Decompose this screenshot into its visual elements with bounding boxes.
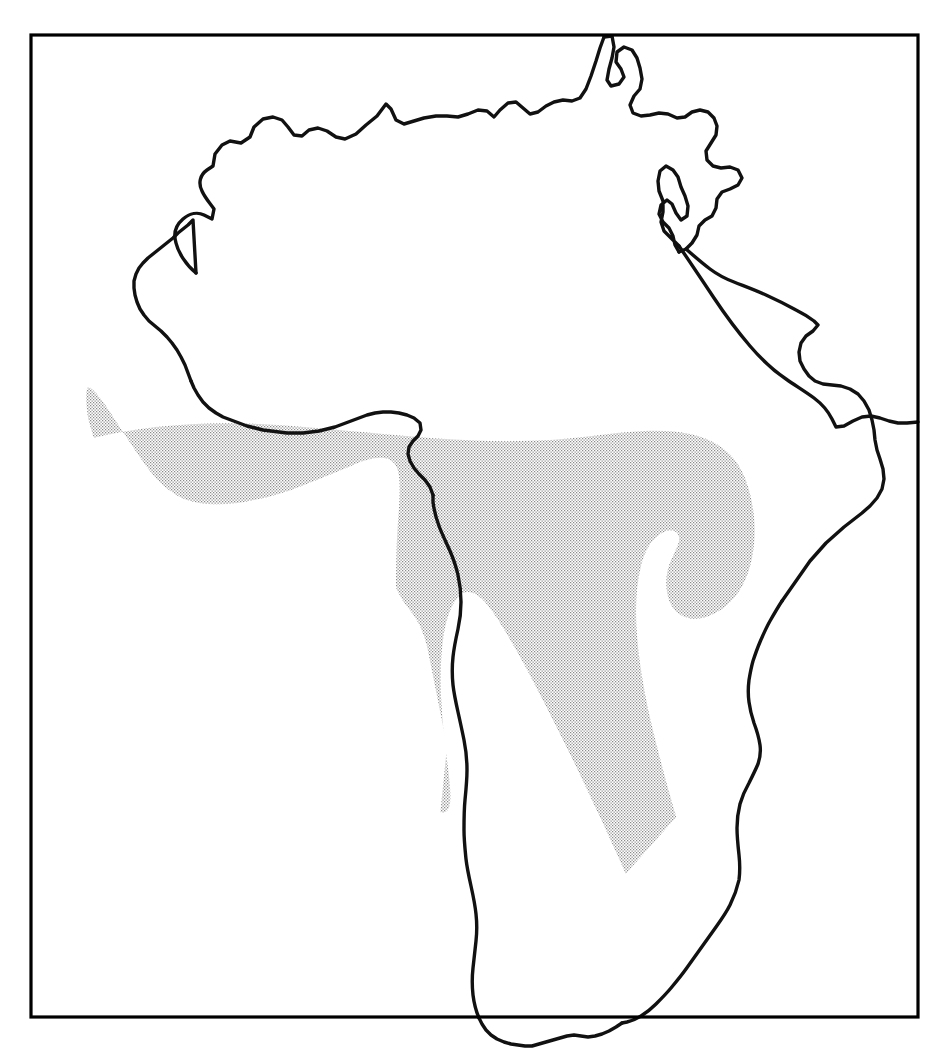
map-figure	[0, 0, 949, 1051]
africa-distribution-map	[0, 0, 949, 1051]
